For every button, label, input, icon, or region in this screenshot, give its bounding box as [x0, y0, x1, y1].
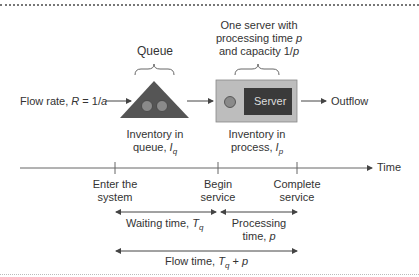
server-description: One server with processing time p and ca… — [214, 19, 304, 58]
waiting-time-label: Waiting time, Tq — [126, 217, 203, 234]
process-item-circle — [225, 97, 236, 108]
queue-item-circle — [157, 101, 168, 112]
event-begin-service: Beginservice — [188, 178, 248, 204]
queue-brace — [135, 64, 174, 75]
diagram-graphics — [0, 0, 419, 277]
outflow-label: Outflow — [331, 95, 368, 108]
queue-triangle-icon — [120, 81, 189, 118]
server-label: Server — [254, 95, 286, 107]
flow-time-label: Flow time, Tq + p — [165, 255, 248, 272]
inventory-process-label: Inventory in process, Ip — [219, 128, 295, 158]
event-enter: Enter thesystem — [85, 178, 145, 204]
flow-rate-label: Flow rate, R = 1/a — [20, 95, 107, 108]
queue-item-circle — [142, 101, 153, 112]
event-complete-service: Completeservice — [262, 178, 332, 204]
processing-time-label: Processing time, p — [229, 217, 289, 243]
inventory-queue-label: Inventory in queue, Iq — [117, 128, 193, 158]
queue-label: Queue — [137, 45, 173, 58]
bottom-dotted-border — [0, 274, 419, 275]
time-axis-label: Time — [377, 161, 401, 174]
server-brace — [235, 64, 279, 75]
